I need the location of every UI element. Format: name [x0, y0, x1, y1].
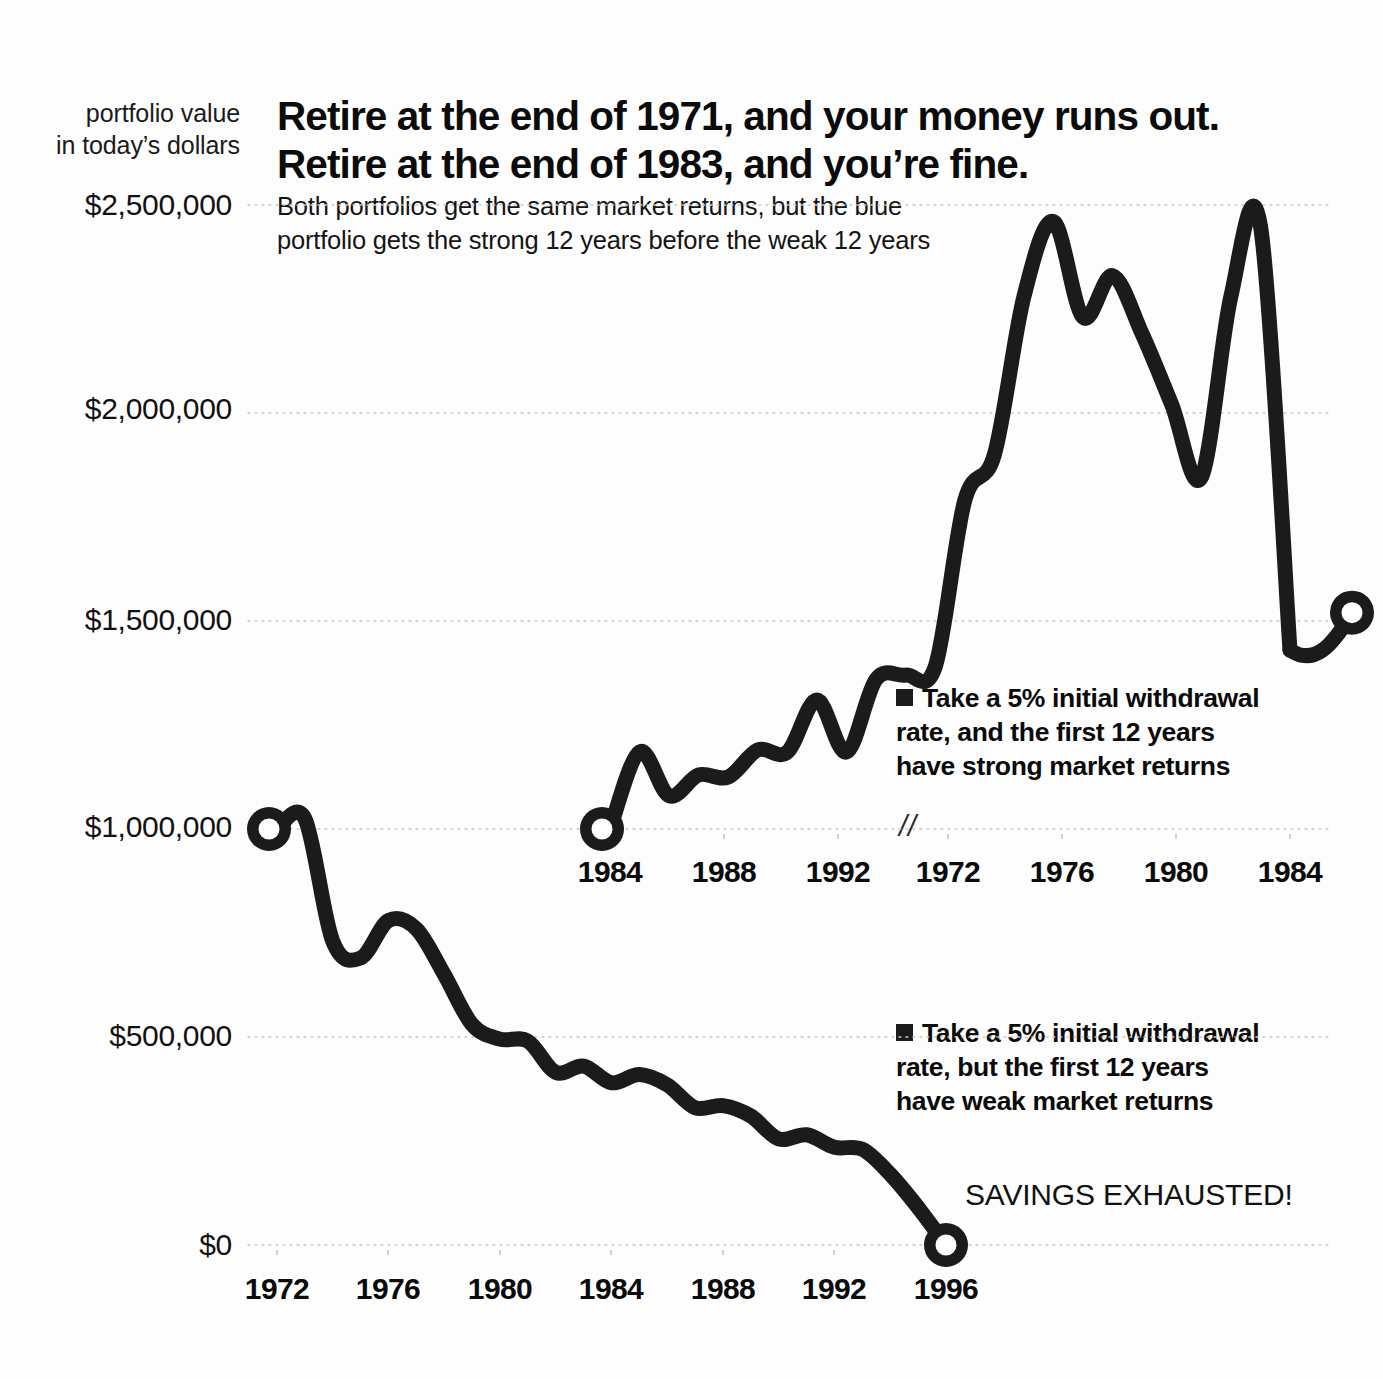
- chart-plot-area: [0, 0, 1383, 1379]
- gridlines-group: [248, 205, 1330, 1255]
- series-group: [277, 206, 1352, 1245]
- end-marker-strong-first-inner: [1342, 602, 1363, 623]
- series-line-weak-first: [277, 812, 946, 1245]
- start-marker-weak-first-inner: [259, 819, 280, 840]
- start-marker-strong-first-inner: [592, 819, 613, 840]
- end-marker-weak-first-inner: [936, 1235, 957, 1256]
- series-line-strong-first: [610, 206, 1290, 829]
- chart-canvas: portfolio value in today’s dollars Retir…: [0, 0, 1383, 1379]
